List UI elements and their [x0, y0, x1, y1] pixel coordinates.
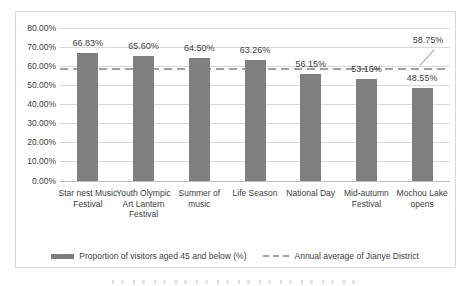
- legend-label-bar-series: Proportion of visitors aged 45 and below…: [79, 251, 246, 262]
- bar-value-label: 65.60%: [116, 41, 172, 52]
- bar: [189, 58, 210, 181]
- y-axis-tick-label: 50.00%: [18, 80, 56, 91]
- category-label: Youth Olympic Art Lantern Festival: [114, 188, 174, 220]
- bar-value-label: 53.16%: [339, 64, 395, 75]
- y-axis-tick-label: 30.00%: [18, 118, 56, 129]
- category-label: Summer of music: [169, 188, 229, 209]
- legend-item-bar-series: Proportion of visitors aged 45 and below…: [51, 251, 246, 262]
- bar-value-label: 63.26%: [227, 45, 283, 56]
- bar-value-label: 64.50%: [171, 43, 227, 54]
- y-axis-tick-label: 40.00%: [18, 99, 56, 110]
- bar: [77, 53, 98, 181]
- average-line-label: 58.75%: [404, 35, 452, 46]
- y-axis-tick-label: 70.00%: [18, 42, 56, 53]
- bar: [133, 56, 154, 181]
- y-axis-tick-label: 20.00%: [18, 137, 56, 148]
- y-axis-tick-label: 0.00%: [18, 176, 56, 187]
- bar-value-label: 48.55%: [394, 73, 450, 84]
- legend-item-average-line: Annual average of Jianye District: [263, 251, 419, 262]
- category-label: Star nest Music Festival: [58, 188, 118, 209]
- category-label: National Day: [281, 188, 341, 199]
- dashed-line-swatch-icon: [263, 255, 290, 257]
- bar: [356, 79, 377, 181]
- figure: 0.00%10.00%20.00%30.00%40.00%50.00%60.00…: [0, 0, 468, 286]
- bar-value-label: 56.15%: [283, 59, 339, 70]
- bar: [412, 88, 433, 181]
- category-label: Mid-autumn Festival: [337, 188, 397, 209]
- bar-chart-plot-area: 0.00%10.00%20.00%30.00%40.00%50.00%60.00…: [0, 0, 468, 286]
- clipped-caption-text: [112, 280, 364, 284]
- bar: [300, 74, 321, 181]
- gridline: [60, 28, 450, 29]
- legend: Proportion of visitors aged 45 and below…: [16, 249, 454, 263]
- bar-series-swatch-icon: [51, 254, 74, 259]
- legend-label-average-line: Annual average of Jianye District: [295, 251, 419, 262]
- category-label: Mochou Lake opens: [392, 188, 452, 209]
- category-label: Life Season: [225, 188, 285, 199]
- y-axis-tick-label: 80.00%: [18, 23, 56, 34]
- y-axis-tick-label: 60.00%: [18, 61, 56, 72]
- bar-value-label: 66.83%: [60, 38, 116, 49]
- bar: [245, 60, 266, 181]
- y-axis-tick-label: 10.00%: [18, 156, 56, 167]
